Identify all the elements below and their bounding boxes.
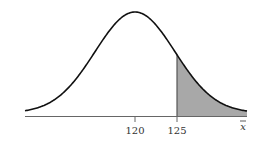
shaded-tail-region — [177, 55, 247, 116]
tick-label-125: 125 — [167, 125, 186, 136]
normal-curve — [25, 12, 247, 111]
x-axis-label: x — [240, 121, 246, 132]
normal-curve-chart: 120 125 x — [0, 0, 261, 148]
tick-label-120: 120 — [125, 125, 144, 136]
